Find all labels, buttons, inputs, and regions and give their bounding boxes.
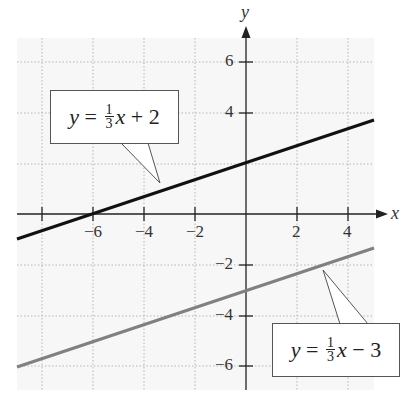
fraction-denominator: 3 (106, 117, 113, 130)
callout-text: − 3 (347, 337, 381, 363)
callout-line-1: y = 13x + 2 (50, 90, 179, 144)
fraction: 13 (105, 103, 114, 130)
callout-text: x (337, 337, 347, 363)
fraction-numerator: 1 (326, 336, 335, 350)
x-tick-label: −2 (186, 222, 204, 242)
y-tick-label: −6 (215, 355, 233, 375)
callout-line-2: y = 13x − 3 (272, 323, 400, 377)
callout-text: = (79, 104, 102, 130)
x-tick-label: 4 (343, 222, 352, 242)
callout-text: = (301, 337, 324, 363)
y-tick-label: −4 (215, 305, 233, 325)
x-axis-arrow-icon (376, 210, 388, 219)
y-tick-label: −2 (215, 254, 233, 274)
callout-text: x (116, 104, 126, 130)
fraction-denominator: 3 (327, 350, 334, 363)
x-tick-label: −6 (84, 222, 102, 242)
fraction-numerator: 1 (105, 103, 114, 117)
y-tick-label: 4 (225, 102, 234, 122)
x-tick-label: −4 (135, 222, 153, 242)
fraction: 13 (326, 336, 335, 363)
y-axis-label: y (241, 2, 249, 23)
y-tick-label: 6 (225, 51, 234, 71)
callout-text: y (69, 104, 79, 130)
x-axis-label: x (391, 203, 399, 224)
callout-text: y (291, 337, 301, 363)
y-axis-arrow-icon (242, 26, 251, 38)
x-tick-label: 2 (292, 222, 301, 242)
callout-text: + 2 (125, 104, 159, 130)
